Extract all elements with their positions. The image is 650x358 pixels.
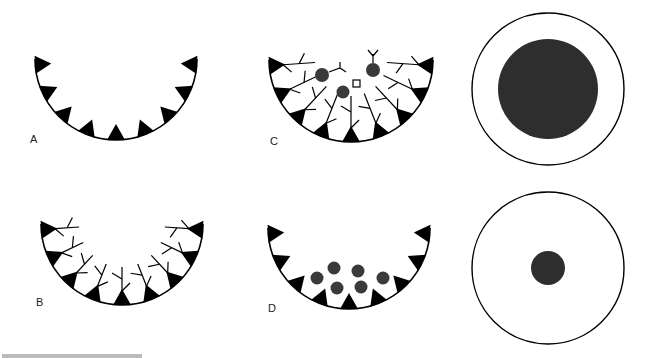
cell-process-branch	[122, 283, 130, 291]
cell-process-branch	[148, 264, 159, 266]
cell-process-branch	[170, 228, 177, 238]
tooth-triangle	[393, 276, 410, 294]
cell-process-branch	[112, 273, 122, 279]
small-core-circle	[472, 192, 624, 344]
cell-process-branch	[359, 106, 371, 108]
large-core-circle	[472, 13, 624, 165]
cell-process-branch	[283, 65, 292, 72]
tooth-triangle	[287, 276, 304, 294]
cell-process-branch	[290, 89, 301, 93]
cell-process-branch	[72, 236, 73, 248]
tooth-triangle	[54, 107, 71, 125]
circle-panels	[472, 13, 624, 344]
cell-process-branch	[95, 266, 102, 275]
tooth-triangle	[288, 108, 305, 126]
panel-label-b: B	[36, 296, 43, 308]
cell-process-branch	[411, 56, 418, 65]
cell-process-branch	[376, 113, 381, 123]
tooth-triangle	[41, 221, 58, 239]
panel-d	[268, 225, 431, 309]
panel-label-c: C	[270, 135, 278, 147]
nucleus-dot	[331, 282, 344, 295]
tooth-triangle	[113, 289, 131, 305]
panel-b	[41, 217, 204, 305]
cell-process-branch	[325, 99, 332, 108]
branch-y	[368, 50, 378, 63]
tooth-triangle	[39, 86, 57, 102]
nucleus-dot	[337, 86, 350, 99]
tooth-triangle	[166, 272, 183, 290]
cell-process-branch	[55, 229, 64, 236]
nucleus-dot	[315, 68, 329, 82]
nucleus-dot	[352, 265, 365, 278]
tooth-triangle	[107, 124, 125, 140]
branch-y	[329, 62, 346, 72]
cell-process-branch	[162, 248, 172, 254]
nucleus-dot	[366, 63, 380, 77]
cell-process-branch	[147, 276, 152, 286]
tooth-triangle	[269, 57, 286, 75]
tooth-triangle	[414, 225, 431, 243]
tooth-triangle	[45, 251, 63, 267]
panel-a	[35, 56, 198, 140]
tooth-triangle	[417, 57, 434, 75]
tooth-triangle	[160, 107, 177, 125]
tooth-triangle	[181, 251, 199, 267]
junction-square	[353, 80, 360, 87]
tooth-triangle	[60, 272, 77, 290]
panel-label-a: A	[30, 133, 38, 145]
cell-process-branch	[81, 253, 84, 264]
panel-label-d: D	[268, 302, 276, 314]
cell-process-branch	[341, 106, 351, 112]
nucleus-dot	[377, 272, 390, 285]
cell-process-branch	[396, 64, 403, 74]
cell-process-branch	[299, 53, 304, 63]
tooth-triangle	[342, 126, 360, 142]
semicircle-panels	[35, 50, 434, 309]
cell-process-branch	[351, 120, 359, 128]
inner-core	[531, 251, 565, 285]
inner-core	[498, 39, 598, 139]
cell-process-branch	[304, 71, 305, 83]
tooth-triangle	[411, 87, 429, 103]
cell-process-branch	[181, 220, 188, 229]
tooth-triangle	[175, 86, 193, 102]
tooth-triangle	[272, 255, 290, 271]
tooth-triangle	[35, 56, 52, 74]
panel-c	[269, 50, 434, 142]
nucleus-dot	[328, 262, 341, 275]
tooth-triangle	[273, 87, 291, 103]
tooth-triangle	[187, 221, 204, 239]
caption-cutoff	[2, 354, 142, 358]
tooth-triangle	[340, 293, 358, 309]
nucleus-dot	[311, 272, 324, 285]
tooth-triangle	[396, 108, 413, 126]
figure-canvas: A B C D	[0, 0, 650, 358]
cell-process-branch	[375, 98, 386, 100]
cell-process-branch	[388, 82, 398, 88]
cell-process-branch	[62, 253, 73, 257]
tooth-triangle	[181, 56, 198, 74]
nucleus-dot	[355, 281, 368, 294]
cell-process-branch	[67, 217, 72, 227]
cell-process	[151, 255, 167, 273]
cell-process-branch	[312, 87, 315, 98]
tooth-triangle	[268, 225, 285, 243]
tooth-triangle	[408, 255, 426, 271]
cell-process-branch	[131, 273, 143, 275]
